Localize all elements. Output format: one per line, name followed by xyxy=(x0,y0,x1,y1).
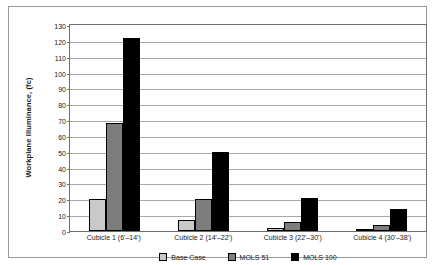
y-axis-tick-label: 130 xyxy=(54,23,66,30)
y-axis-tick-label: 30 xyxy=(58,181,66,188)
y-axis-tick-label: 100 xyxy=(54,70,66,77)
bar xyxy=(212,152,229,231)
y-axis-tick-label: 110 xyxy=(55,54,66,61)
bar xyxy=(106,123,123,231)
bar xyxy=(123,38,140,231)
legend-swatch xyxy=(228,253,236,261)
x-axis-labels: Cubicle 1 (6'–14')Cubicle 2 (14'–22')Cub… xyxy=(69,234,427,246)
x-axis-label: Cubicle 2 (14'–22') xyxy=(159,234,249,246)
y-axis-tick-label: 60 xyxy=(58,133,66,140)
legend-label: Base Case xyxy=(171,254,205,261)
y-axis-tick-label: 90 xyxy=(58,86,66,93)
y-axis-tick-label: 80 xyxy=(58,102,66,109)
x-axis-label: Cubicle 4 (30'–38') xyxy=(338,234,428,246)
bar-group xyxy=(337,25,426,231)
bar-group xyxy=(70,25,159,231)
chart-frame: Workplane Illuminance, (fc) 010203040506… xyxy=(8,6,427,258)
x-axis-label: Cubicle 1 (6'–14') xyxy=(69,234,159,246)
y-axis-tick-label: 10 xyxy=(58,213,66,220)
y-axis-title-text: Workplane Illuminance, (fc) xyxy=(24,77,33,177)
bar-group xyxy=(248,25,337,231)
bar-groups xyxy=(70,25,426,231)
y-axis-tick-label: 70 xyxy=(58,118,66,125)
legend-item[interactable]: MOLS 100 xyxy=(291,253,336,261)
plot-area-wrapper: 0102030405060708090100110120130 xyxy=(69,24,427,232)
y-axis-tick-label: 20 xyxy=(58,197,66,204)
chart-legend: Base CaseMOLS 51MOLS 100 xyxy=(69,251,427,263)
bar xyxy=(301,198,318,231)
bar xyxy=(390,209,407,231)
bar xyxy=(284,222,301,232)
legend-swatch xyxy=(291,253,299,261)
bar xyxy=(89,199,106,231)
bar xyxy=(195,199,212,231)
legend-item[interactable]: Base Case xyxy=(159,253,205,261)
bar-group xyxy=(159,25,248,231)
legend-label: MOLS 100 xyxy=(303,254,336,261)
legend-label: MOLS 51 xyxy=(240,254,270,261)
y-axis-tick-label: 40 xyxy=(58,165,66,172)
x-axis-label: Cubicle 3 (22'–30') xyxy=(248,234,338,246)
y-axis-tick-label: 50 xyxy=(58,149,66,156)
bar xyxy=(178,220,195,231)
legend-item[interactable]: MOLS 51 xyxy=(228,253,270,261)
bar xyxy=(356,229,373,231)
legend-swatch xyxy=(159,253,167,261)
y-axis-tick-label: 0 xyxy=(62,229,66,236)
bar xyxy=(267,228,284,231)
y-axis-tick-mark xyxy=(67,232,70,233)
y-axis-title: Workplane Illuminance, (fc) xyxy=(19,17,37,237)
bar xyxy=(373,225,390,231)
y-axis-tick-label: 120 xyxy=(54,38,66,45)
